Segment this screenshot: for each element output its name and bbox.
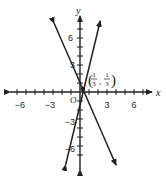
tick-y-m3: −3 — [65, 117, 75, 127]
x-denominator: 3 — [92, 80, 96, 88]
intersection-point — [81, 87, 85, 91]
tick-x-6: 6 — [131, 100, 136, 110]
tick-x-3: 3 — [104, 100, 109, 110]
x-numerator: 1 — [92, 71, 96, 79]
tick-y-m6: −6 — [65, 144, 75, 154]
coordinate-plane: −6 −3 3 6 6 3 −3 −6 x y O ( 1 3 , 1 3 ) — [0, 0, 166, 176]
y-numerator: 1 — [105, 71, 109, 79]
x-axis-label: x — [155, 87, 161, 98]
tick-y-6: 6 — [68, 33, 73, 43]
svg-text:,: , — [99, 76, 101, 86]
close-paren: ) — [111, 72, 116, 89]
y-denominator: 3 — [105, 80, 109, 88]
point-annotation: ( 1 3 , 1 3 ) — [88, 71, 116, 89]
y-axis-label: y — [75, 5, 81, 16]
tick-y-3: 3 — [70, 60, 75, 70]
tick-x-m6: −6 — [15, 100, 25, 110]
tick-x-m3: −3 — [45, 100, 55, 110]
origin-label: O — [70, 95, 77, 105]
